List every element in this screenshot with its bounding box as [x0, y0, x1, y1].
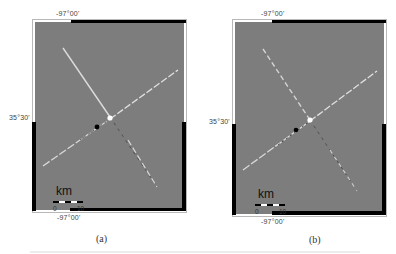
- panel-caption: (b): [309, 234, 321, 245]
- top-longitude-label: -97°00': [261, 10, 284, 17]
- bottom-longitude-label: -97°00': [57, 214, 80, 221]
- black-star-icon: [95, 125, 100, 130]
- white-star-icon: [107, 115, 112, 120]
- scale-bar: km 0 10: [254, 187, 288, 217]
- map-panel-a: -97°00' 35°30' -97°00' km 0 10 (a): [0, 0, 200, 254]
- black-star-icon: [294, 128, 299, 133]
- scale-tick-10: 10: [279, 208, 286, 215]
- map-panel-b: -97°00' 35°30' -97°00' km 0 10 (b): [200, 0, 396, 254]
- scale-segment: [77, 201, 83, 203]
- left-latitude-label: 35°30': [209, 118, 230, 125]
- scale-unit: km: [56, 184, 72, 198]
- white-star-icon: [307, 117, 312, 122]
- panel-caption: (a): [96, 233, 107, 244]
- bottom-longitude-label: -97°00': [261, 218, 284, 225]
- top-longitude-label: -97°00': [56, 10, 79, 17]
- scale-tick-10: 10: [77, 205, 84, 212]
- scale-unit: km: [258, 187, 274, 201]
- scale-bar: km 0 10: [52, 184, 86, 214]
- scale-segment: [279, 204, 285, 206]
- scale-tick-0: 0: [255, 208, 259, 215]
- left-latitude-label: 35°30': [9, 114, 30, 121]
- lineaments: [200, 0, 396, 230]
- cropped-caption-line: [30, 251, 360, 253]
- scale-tick-0: 0: [53, 205, 57, 212]
- lineaments: [0, 0, 200, 230]
